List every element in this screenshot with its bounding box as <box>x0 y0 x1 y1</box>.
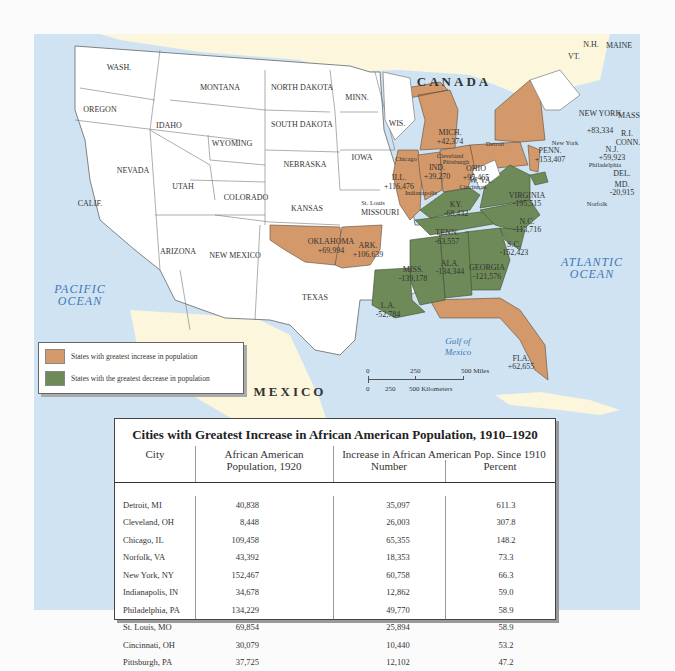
table-row: Detroit, MI40,83835,097611.3 <box>115 496 555 514</box>
table-header: City African American Population, 1920 I… <box>115 446 555 483</box>
svg-text:+62,655: +62,655 <box>508 362 535 371</box>
pacific-label-2: OCEAN <box>58 294 102 308</box>
city-population-table: Cities with Greatest Increase in African… <box>114 418 556 620</box>
svg-text:Philadelphia: Philadelphia <box>589 161 622 168</box>
svg-text:L.A.: L.A. <box>381 301 396 310</box>
svg-text:OKLAHOMA: OKLAHOMA <box>308 237 355 246</box>
svg-text:+106,639: +106,639 <box>353 250 384 259</box>
svg-text:NORTH DAKOTA: NORTH DAKOTA <box>271 83 333 92</box>
table-row: New York, NY152,46760,75866.3 <box>115 566 555 584</box>
legend-increase-label: States with greatest increase in populat… <box>71 352 197 361</box>
svg-text:-152,423: -152,423 <box>500 248 529 257</box>
svg-text:MAINE: MAINE <box>606 41 632 50</box>
svg-text:-63,557: -63,557 <box>435 237 460 246</box>
header-pop-1920-line2: Population, 1920 <box>195 460 333 472</box>
table-row: Indianapolis, IN34,67812,86259.0 <box>115 584 555 602</box>
svg-text:MISSOURI: MISSOURI <box>361 208 400 217</box>
svg-text:N.H.: N.H. <box>583 40 599 49</box>
svg-text:NEW MEXICO: NEW MEXICO <box>209 251 261 260</box>
svg-text:Indianapolis: Indianapolis <box>405 189 438 196</box>
svg-text:NEVADA: NEVADA <box>117 166 150 175</box>
gulf-label-2: Mexico <box>444 347 472 357</box>
svg-text:WIS.: WIS. <box>389 119 406 128</box>
svg-text:+95,465: +95,465 <box>463 173 490 182</box>
table-title: Cities with Greatest Increase in African… <box>115 427 555 443</box>
header-increase-group: Increase in African American Pop. Since … <box>333 448 555 460</box>
table-row: Philadelphia, PA134,22949,77058.9 <box>115 601 555 619</box>
svg-text:+83,334: +83,334 <box>587 126 614 135</box>
svg-text:VT.: VT. <box>568 52 580 61</box>
svg-text:CALIF.: CALIF. <box>78 199 102 208</box>
table-row: Chicago, IL109,45865,355148.2 <box>115 531 555 549</box>
svg-text:CONN.: CONN. <box>616 138 640 147</box>
svg-text:Pittsburgh: Pittsburgh <box>443 158 470 165</box>
svg-text:+153,407: +153,407 <box>535 155 566 164</box>
svg-text:OHIO: OHIO <box>466 164 486 173</box>
svg-text:DEL.: DEL. <box>613 169 631 178</box>
cuba-land <box>495 392 620 415</box>
svg-text:UTAH: UTAH <box>172 182 194 191</box>
svg-text:IDAHO: IDAHO <box>156 121 182 130</box>
svg-text:WASH.: WASH. <box>107 63 132 72</box>
svg-text:KY.: KY. <box>450 200 463 209</box>
table-row: Cincinnati, OH30,07910,44053.2 <box>115 636 555 654</box>
header-number: Number <box>333 460 445 472</box>
state-wisconsin <box>383 72 415 140</box>
table-row: St. Louis, MO69,85425,89458.9 <box>115 619 555 637</box>
svg-text:NEW YORK: NEW YORK <box>579 109 622 118</box>
svg-text:TENN.: TENN. <box>435 228 458 237</box>
svg-text:OREGON: OREGON <box>83 105 117 114</box>
svg-text:New York: New York <box>552 139 579 146</box>
svg-text:WYOMING: WYOMING <box>212 139 253 148</box>
legend-item-increase: States with greatest increase in populat… <box>45 347 243 365</box>
svg-text:St. Louis: St. Louis <box>361 199 385 206</box>
map-legend: States with greatest increase in populat… <box>38 342 244 394</box>
svg-text:Chicago: Chicago <box>395 155 417 162</box>
svg-text:MASS.: MASS. <box>618 111 640 120</box>
svg-text:ARK.: ARK. <box>359 241 378 250</box>
gulf-label-1: Gulf of <box>445 336 472 346</box>
svg-text:-52,784: -52,784 <box>376 310 401 319</box>
state-maryland <box>530 172 548 185</box>
table-row: Norfolk, VA43,39218,35373.3 <box>115 549 555 567</box>
legend-decrease-label: States with the greatest decrease in pop… <box>71 374 210 383</box>
svg-text:MISS.: MISS. <box>403 265 424 274</box>
svg-text:GEORGIA: GEORGIA <box>469 263 505 272</box>
svg-text:KANSAS: KANSAS <box>291 204 323 213</box>
svg-text:-139,178: -139,178 <box>399 274 428 283</box>
svg-text:-20,915: -20,915 <box>610 188 635 197</box>
scale-bar: 0 250 500 Miles 0 250 500 Kilometers <box>363 367 503 397</box>
svg-text:+39,270: +39,270 <box>424 172 451 181</box>
svg-text:MICH.: MICH. <box>439 128 462 137</box>
header-percent: Percent <box>445 460 555 472</box>
decrease-swatch <box>45 371 65 386</box>
increase-swatch <box>45 349 65 364</box>
svg-text:+69,994: +69,994 <box>318 246 345 255</box>
svg-text:-121,576: -121,576 <box>473 272 502 281</box>
svg-text:-68,432: -68,432 <box>444 209 469 218</box>
table-body: Detroit, MI40,83835,097611.3 Cleveland, … <box>115 496 555 671</box>
svg-text:IOWA: IOWA <box>352 153 373 162</box>
svg-text:PENN.: PENN. <box>539 146 562 155</box>
svg-text:NEBRASKA: NEBRASKA <box>283 160 326 169</box>
table-row: Cleveland, OH8,44826,003307.8 <box>115 514 555 532</box>
svg-text:Norfolk: Norfolk <box>587 200 608 207</box>
canada-label: CANADA <box>417 74 491 89</box>
svg-text:-134,344: -134,344 <box>436 267 465 276</box>
svg-text:MINN.: MINN. <box>345 93 368 102</box>
header-city: City <box>115 448 195 460</box>
header-pop-1920-line1: African American <box>195 448 333 460</box>
svg-text:-113,716: -113,716 <box>513 225 541 234</box>
svg-text:SOUTH DAKOTA: SOUTH DAKOTA <box>271 120 333 129</box>
svg-text:Cincinnati: Cincinnati <box>459 183 486 190</box>
mexico-label: MEXICO <box>254 384 327 399</box>
svg-text:R.I.: R.I. <box>621 129 633 138</box>
svg-text:+42,374: +42,374 <box>437 137 464 146</box>
svg-text:MONTANA: MONTANA <box>200 83 240 92</box>
svg-text:TEXAS: TEXAS <box>302 293 328 302</box>
table-row: Pittsburgh, PA37,72512,10247.2 <box>115 654 555 671</box>
svg-text:-195,515: -195,515 <box>513 199 542 208</box>
atlantic-label-2: OCEAN <box>570 267 614 281</box>
svg-text:Detroit: Detroit <box>486 140 505 147</box>
svg-text:ILL.: ILL. <box>392 173 406 182</box>
